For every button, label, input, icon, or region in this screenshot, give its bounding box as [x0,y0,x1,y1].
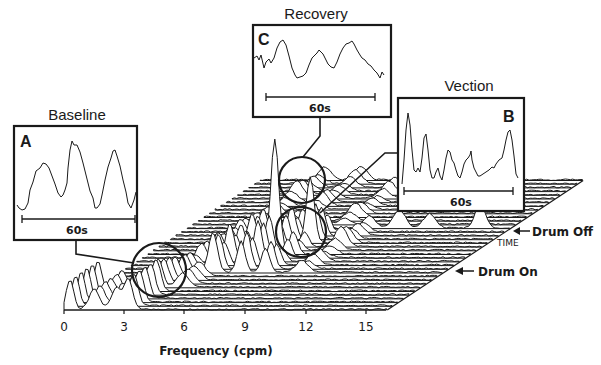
waterfall-figure: 0 3 6 9 12 15 Frequency (cpm) Drum Off T… [0,0,601,365]
x-tick-labels: 0 3 6 9 12 15 [60,320,373,334]
inset-b-letter: B [503,108,515,125]
inset-c-letter: C [258,31,270,48]
x-axis [64,310,386,314]
drum-off-annotation: Drum Off [513,225,593,239]
inset-b-scale: 60s [450,196,472,209]
x-tick-6: 6 [180,320,188,334]
inset-a-scale: 60s [66,224,88,237]
drum-on-label: Drum On [478,265,538,279]
x-tick-0: 0 [60,320,68,334]
x-tick-3: 3 [120,320,128,334]
inset-a-title: Baseline [48,106,106,123]
inset-c-title: Recovery [284,5,348,22]
inset-b-vection: Vection B 60s [398,77,524,211]
x-tick-9: 9 [241,320,249,334]
drum-on-annotation: Drum On [455,265,538,279]
inset-c-recovery: Recovery C 60s [253,5,391,117]
x-axis-title: Frequency (cpm) [159,344,273,358]
inset-b-title: Vection [444,77,493,94]
inset-a-letter: A [20,133,32,150]
x-tick-15: 15 [358,320,373,334]
x-tick-12: 12 [298,320,313,334]
drum-off-label: Drum Off [532,225,593,239]
time-axis-label: TIME [496,238,519,248]
inset-c-scale: 60s [309,102,331,115]
inset-a-baseline: Baseline A 60s [14,106,137,240]
